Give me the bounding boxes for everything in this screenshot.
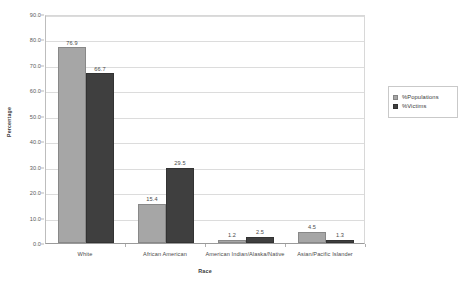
x-tick-label: White [78, 251, 93, 257]
x-axis-ticks: WhiteAfrican AmericanAmerican Indian/Ala… [45, 244, 365, 260]
x-tick-label: American Indian/Alaska/Native [205, 251, 284, 257]
y-tick-label: 60.0 [30, 88, 41, 94]
bar-value-label: 29.5 [174, 160, 185, 166]
bar[interactable]: 66.7 [86, 14, 114, 243]
bar-fill [298, 232, 326, 243]
y-tick-mark [41, 65, 44, 66]
bar-fill [58, 47, 86, 243]
bar-fill [166, 168, 194, 243]
y-tick-mark [41, 193, 44, 194]
bar-value-label: 76.9 [66, 40, 77, 46]
legend-item[interactable]: %Populations [393, 94, 453, 100]
bar-pair: 76.966.7 [46, 16, 126, 243]
bar[interactable]: 1.2 [218, 14, 246, 243]
bar-group: 4.51.3 [286, 16, 366, 243]
bar[interactable]: 2.5 [246, 14, 274, 243]
y-axis-title-text: Percentage [6, 107, 12, 137]
bar-value-label: 15.4 [146, 196, 157, 202]
y-axis-ticks: 0.010.020.030.040.050.060.070.080.090.0 [14, 15, 44, 244]
bar[interactable]: 29.5 [166, 14, 194, 243]
x-tick-mark [125, 244, 126, 247]
y-tick-label: 70.0 [30, 63, 41, 69]
y-tick-mark [41, 91, 44, 92]
bar[interactable]: 4.5 [298, 14, 326, 243]
x-tick-mark [365, 244, 366, 247]
bar-fill [138, 204, 166, 243]
bar-value-label: 66.7 [94, 66, 105, 72]
x-axis-title: Race [45, 268, 365, 274]
bar[interactable]: 1.3 [326, 14, 354, 243]
bar-group: 15.429.5 [126, 16, 206, 243]
bar-value-label: 4.5 [308, 224, 316, 230]
chart-legend: %Populations%Victims [388, 86, 458, 118]
bar-pair: 1.22.5 [206, 16, 286, 243]
x-tick-mark [285, 244, 286, 247]
bar-group: 76.966.7 [46, 16, 126, 243]
y-tick-label: 20.0 [30, 190, 41, 196]
legend-swatch-icon [393, 95, 398, 100]
y-tick-label: 40.0 [30, 139, 41, 145]
bar-fill [326, 240, 354, 243]
y-tick-label: 30.0 [30, 165, 41, 171]
y-tick-mark [41, 167, 44, 168]
legend-item[interactable]: %Victims [393, 103, 453, 109]
legend-swatch-icon [393, 104, 398, 109]
bar-value-label: 2.5 [256, 229, 264, 235]
bar[interactable]: 15.4 [138, 14, 166, 243]
bar-fill [86, 73, 114, 243]
bar-pair: 15.429.5 [126, 16, 206, 243]
y-tick-mark [41, 15, 44, 16]
x-tick-label: Asian/Pacific Islander [297, 251, 353, 257]
y-tick-mark [41, 40, 44, 41]
legend-label: %Populations [402, 94, 439, 100]
bar-fill [218, 240, 246, 243]
y-tick-mark [41, 116, 44, 117]
y-tick-mark [41, 142, 44, 143]
y-tick-label: 90.0 [30, 12, 41, 18]
y-tick-mark [41, 218, 44, 219]
bar-fill [246, 237, 274, 243]
x-tick-mark [205, 244, 206, 247]
bar-group: 1.22.5 [206, 16, 286, 243]
y-tick-label: 80.0 [30, 37, 41, 43]
bars-layer: 76.966.715.429.51.22.54.51.3 [46, 16, 364, 243]
y-tick-label: 0.0 [33, 241, 41, 247]
y-tick-label: 50.0 [30, 114, 41, 120]
x-tick-label: African American [143, 251, 187, 257]
y-tick-mark [41, 244, 44, 245]
legend-label: %Victims [402, 103, 427, 109]
bar[interactable]: 76.9 [58, 14, 86, 243]
y-tick-label: 10.0 [30, 216, 41, 222]
bar-value-label: 1.2 [228, 232, 236, 238]
plot-area: 76.966.715.429.51.22.54.51.3 [45, 15, 365, 244]
bar-chart: Percentage 0.010.020.030.040.050.060.070… [0, 0, 464, 290]
bar-pair: 4.51.3 [286, 16, 366, 243]
bar-value-label: 1.3 [336, 232, 344, 238]
